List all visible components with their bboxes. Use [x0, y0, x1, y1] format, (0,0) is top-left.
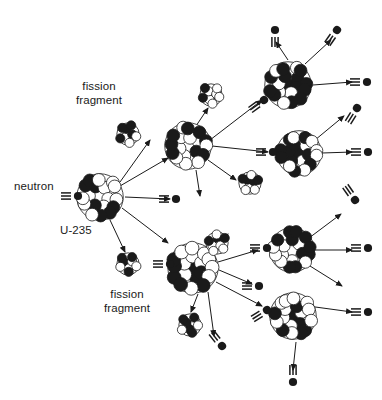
label-fission-fragment-top-line1: fission: [82, 80, 115, 94]
fission-diagram-canvas: [0, 0, 382, 400]
label-fission-fragment-bottom-line2: fragment: [104, 302, 150, 316]
label-fission-fragment-top-line2: fragment: [76, 94, 122, 108]
label-fission-fragment-bottom-line1: fission: [110, 288, 143, 302]
figure-background: [0, 0, 382, 400]
fission-chain-reaction-figure: neutronU-235fissionfragmentfissionfragme…: [0, 0, 382, 400]
label-u235: U-235: [60, 224, 92, 238]
label-neutron: neutron: [14, 180, 54, 194]
